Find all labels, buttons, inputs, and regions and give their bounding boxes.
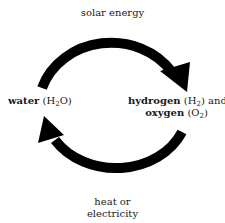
oxygen-formula-sub: 2 bbox=[200, 112, 204, 120]
hydrogen-name: hydrogen bbox=[128, 95, 181, 106]
oxygen-line: oxygen (O2) bbox=[128, 107, 225, 119]
water-formula-o: O bbox=[60, 95, 68, 106]
node-label-hydrogen-oxygen: hydrogen (H2) and oxygen (O2) bbox=[128, 95, 225, 119]
arrow-solar-energy bbox=[42, 43, 190, 92]
water-name: water bbox=[8, 95, 39, 106]
edge-label-solar-energy: solar energy bbox=[0, 7, 225, 19]
oxygen-name: oxygen bbox=[145, 107, 184, 118]
solar-energy-text: solar energy bbox=[81, 7, 144, 18]
arc-top bbox=[42, 43, 172, 88]
electricity-text: electricity bbox=[0, 208, 225, 220]
arc-bottom bbox=[55, 132, 182, 168]
oxygen-formula-o: O bbox=[191, 107, 199, 118]
heat-or-text: heat or bbox=[0, 196, 225, 208]
arrow-heat-electricity bbox=[38, 116, 182, 168]
node-label-water: water (H2O) bbox=[8, 95, 72, 107]
edge-label-heat-electricity: heat or electricity bbox=[0, 196, 225, 220]
water-hydrogen-cycle-diagram: solar energy water (H2O) hydrogen (H2) a… bbox=[0, 0, 225, 223]
hydrogen-line: hydrogen (H2) and bbox=[128, 95, 225, 107]
and-connector: and bbox=[208, 95, 225, 106]
water-formula-h: H bbox=[46, 95, 55, 106]
